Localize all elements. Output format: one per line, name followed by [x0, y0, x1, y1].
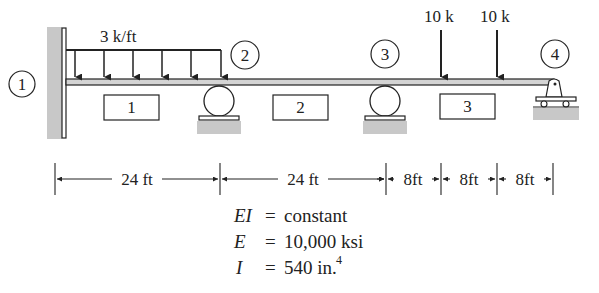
- svg-text:1: 1: [18, 75, 27, 94]
- beam: [66, 79, 554, 85]
- node-label-3: 3: [371, 40, 399, 68]
- prop-e-eq: =: [265, 231, 276, 252]
- dim-span-3: 8ft: [404, 170, 423, 189]
- svg-text:2: 2: [296, 98, 305, 117]
- prop-i-eq: =: [265, 257, 276, 278]
- point-load-1-label: 10 k: [424, 7, 454, 26]
- prop-ei-value: constant: [284, 205, 348, 226]
- roller-support-2: [197, 86, 241, 134]
- element-label-3: 3: [440, 94, 495, 119]
- prop-ei-eq: =: [265, 205, 276, 226]
- svg-text:4: 4: [551, 45, 560, 64]
- prop-e-value: 10,000 ksi: [284, 231, 363, 252]
- point-load-2: 10 k: [480, 7, 510, 77]
- dim-span-2: 24 ft: [287, 170, 319, 189]
- element-label-1: 1: [104, 95, 159, 120]
- distributed-load: 3 k/ft: [66, 27, 221, 77]
- svg-text:3: 3: [381, 45, 390, 64]
- beam-diagram: 3 k/ft 10 k 10 k 1 2 3: [0, 0, 599, 293]
- svg-text:1: 1: [127, 98, 136, 117]
- fixed-support: [47, 27, 66, 139]
- roller-support-3: [363, 86, 407, 134]
- dim-span-4: 8ft: [460, 170, 479, 189]
- svg-text:3: 3: [463, 97, 472, 116]
- element-label-2: 2: [273, 95, 328, 120]
- node-label-4: 4: [541, 40, 569, 68]
- point-load-1: 10 k: [424, 7, 454, 77]
- prop-i-exponent: 4: [336, 253, 342, 267]
- point-load-2-label: 10 k: [480, 7, 510, 26]
- node-label-2: 2: [231, 41, 259, 69]
- distributed-load-label: 3 k/ft: [100, 27, 137, 46]
- wall-hatch: [47, 27, 62, 139]
- prop-i-symbol: I: [235, 257, 244, 278]
- section-properties: EI = constant E = 10,000 ksi I = 540 in.…: [233, 205, 363, 278]
- prop-ei-symbol: EI: [233, 205, 254, 226]
- dim-span-5: 8ft: [516, 170, 535, 189]
- dim-span-1: 24 ft: [121, 170, 153, 189]
- prop-i-value: 540 in.: [284, 257, 337, 278]
- svg-text:2: 2: [241, 46, 250, 65]
- node-label-1: 1: [9, 71, 35, 97]
- prop-e-symbol: E: [233, 231, 246, 252]
